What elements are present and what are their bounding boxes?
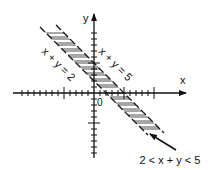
inequality-diagram: x y 0 x + y = 2 x + y = 5 2 < x + y < 5 [0,0,222,170]
x-axis-label: x [180,74,186,86]
y-axis-label: y [83,12,89,24]
region-pointer-arrow [150,134,176,150]
region-label: 2 < x + y < 5 [140,154,201,166]
origin-label: 0 [97,97,103,108]
